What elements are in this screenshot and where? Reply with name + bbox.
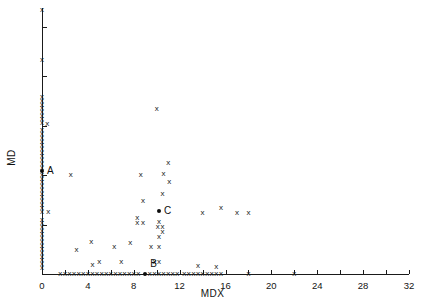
y-tick-20 — [43, 27, 47, 28]
x-tick-24 — [317, 270, 318, 274]
data-point: x — [141, 219, 145, 227]
data-point: x — [201, 270, 205, 278]
data-point: x — [214, 263, 218, 271]
data-point: x — [97, 258, 101, 266]
data-point: x — [46, 208, 50, 216]
data-point: x — [205, 270, 209, 278]
data-point: x — [89, 238, 93, 246]
data-point: x — [157, 243, 161, 251]
x-axis-title: MDX — [0, 288, 425, 299]
x-tick-20 — [271, 270, 272, 274]
data-point: x — [182, 270, 186, 278]
data-point: x — [292, 270, 296, 278]
data-point: x — [160, 228, 164, 236]
data-point: x — [132, 270, 136, 278]
data-point: x — [152, 270, 156, 278]
data-point: x — [139, 171, 143, 179]
data-point: x — [201, 209, 205, 217]
data-point: x — [123, 270, 127, 278]
data-point: x — [74, 246, 78, 254]
data-point: x — [100, 270, 104, 278]
data-point: x — [69, 171, 73, 179]
point-label-B: B — [150, 259, 157, 269]
highlighted-point-B — [143, 272, 147, 276]
y-tick-16 — [43, 76, 47, 77]
data-point: x — [40, 264, 44, 272]
data-point: x — [157, 270, 161, 278]
data-point: x — [45, 120, 49, 128]
point-label-C: C — [164, 206, 171, 216]
data-point: x — [187, 270, 191, 278]
data-point: x — [128, 239, 132, 247]
data-point: x — [95, 270, 99, 278]
data-point: x — [86, 270, 90, 278]
data-point: x — [214, 270, 218, 278]
y-tick-0 — [43, 274, 47, 275]
data-point: x — [246, 209, 250, 217]
data-point: x — [40, 6, 44, 14]
data-point: x — [162, 270, 166, 278]
data-point: x — [157, 233, 161, 241]
data-point: x — [166, 159, 170, 167]
data-point: x — [113, 270, 117, 278]
x-tick-28 — [363, 270, 364, 274]
x-tick-16 — [226, 270, 227, 274]
data-point: x — [72, 270, 76, 278]
x-tick-32 — [409, 270, 410, 274]
scatter-plot-figure: 048121620242832 048121620 xxxxxxxxxxxxxx… — [0, 0, 425, 304]
data-point: x — [63, 270, 67, 278]
data-point: x — [219, 270, 223, 278]
data-point: x — [175, 270, 179, 278]
data-point: x — [90, 261, 94, 269]
data-point: x — [167, 178, 171, 186]
data-point: x — [90, 270, 94, 278]
data-point: x — [191, 270, 195, 278]
data-point: x — [156, 223, 160, 231]
data-point: x — [77, 270, 81, 278]
data-point: x — [160, 190, 164, 198]
data-point: x — [81, 270, 85, 278]
point-label-A: A — [47, 166, 54, 176]
x-tick-30 — [386, 270, 387, 274]
highlighted-point-A — [40, 169, 44, 173]
data-point: x — [235, 209, 239, 217]
data-point: x — [155, 105, 159, 113]
y-axis-title: MD — [6, 138, 17, 178]
data-point: x — [162, 170, 166, 178]
data-point: x — [118, 270, 122, 278]
data-point: x — [171, 270, 175, 278]
data-point: x — [210, 270, 214, 278]
data-point: x — [104, 270, 108, 278]
data-point: x — [127, 270, 131, 278]
data-point: x — [40, 56, 44, 64]
x-tick-12 — [180, 270, 181, 274]
data-point: x — [246, 270, 250, 278]
data-point: x — [58, 270, 62, 278]
data-point: x — [109, 270, 113, 278]
data-point: x — [119, 258, 123, 266]
data-point: x — [136, 270, 140, 278]
data-point: x — [196, 270, 200, 278]
data-point: x — [166, 270, 170, 278]
data-point: x — [157, 258, 161, 266]
data-point: x — [135, 219, 139, 227]
x-tick-26 — [340, 270, 341, 274]
data-point: x — [148, 270, 152, 278]
data-point: x — [149, 243, 153, 251]
highlighted-point-C — [157, 209, 161, 213]
data-point: x — [68, 270, 72, 278]
data-point: x — [112, 243, 116, 251]
data-point: x — [141, 197, 145, 205]
data-point: x — [219, 204, 223, 212]
